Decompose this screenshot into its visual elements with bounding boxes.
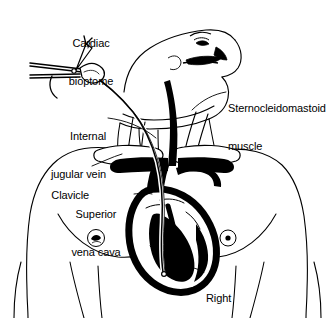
label-sternocleidomastoid-line1: Sternocleidomastoid — [228, 102, 335, 115]
label-cardiac-bioptome-line2: bioptome — [52, 75, 130, 88]
medical-illustration-figure: Cardiac bioptome Sternocleidomastoid mus… — [0, 0, 335, 318]
label-right-ventricular-septum: Right ventricular septum — [206, 267, 276, 318]
label-cardiac-bioptome-line1: Cardiac — [52, 37, 130, 50]
label-superior-vena-cava: Superior vena cava — [62, 183, 130, 283]
label-internal-jugular-line1: Internal — [24, 130, 106, 143]
label-superior-vena-cava-line1: Superior — [62, 208, 130, 221]
right-nipple — [220, 230, 236, 246]
label-right-ventricular-septum-line1: Right — [206, 292, 276, 305]
label-sternocleidomastoid-muscle: Sternocleidomastoid muscle — [228, 77, 335, 177]
label-cardiac-bioptome: Cardiac bioptome — [52, 12, 130, 112]
label-sternocleidomastoid-line2: muscle — [228, 140, 335, 153]
label-superior-vena-cava-line2: vena cava — [62, 246, 130, 259]
